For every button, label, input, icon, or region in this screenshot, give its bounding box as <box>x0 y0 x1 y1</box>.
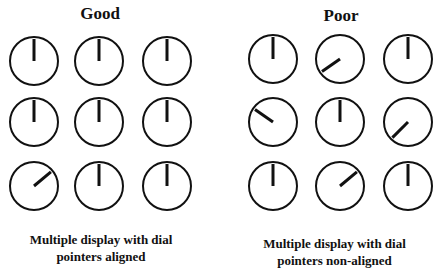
good-caption-line-1: Multiple display with dial <box>0 231 202 248</box>
dial-gauge <box>316 162 364 210</box>
dial-gauge <box>143 37 191 85</box>
dial-gauge <box>384 35 432 83</box>
dial-gauge <box>10 98 58 146</box>
dial-gauge <box>249 98 297 146</box>
good-dial-grid <box>10 37 191 210</box>
poor-panel-caption: Multiple display with dial pointers non-… <box>230 235 439 269</box>
dial-gauge <box>316 35 364 83</box>
dial-pointer <box>340 172 357 186</box>
dial-gauge <box>316 98 364 146</box>
dial-gauge <box>143 98 191 146</box>
poor-caption-line-2: pointers non-aligned <box>230 252 439 269</box>
dial-gauge <box>143 162 191 210</box>
dial-gauge <box>75 162 123 210</box>
dial-pointer <box>255 109 273 122</box>
dial-gauge <box>10 162 58 210</box>
dial-pointer <box>322 59 340 72</box>
good-caption-line-2: pointers aligned <box>0 248 202 265</box>
poor-dial-grid <box>249 35 432 210</box>
good-panel-caption: Multiple display with dial pointers alig… <box>0 231 202 265</box>
dial-gauge <box>75 37 123 85</box>
dial-pointer <box>34 172 51 186</box>
dial-gauge <box>249 35 297 83</box>
dial-pointer <box>392 122 408 138</box>
dial-gauge <box>384 98 432 146</box>
dial-gauge <box>384 162 432 210</box>
dial-gauge <box>249 162 297 210</box>
poor-caption-line-1: Multiple display with dial <box>230 235 439 252</box>
dial-gauge <box>10 37 58 85</box>
dial-gauge <box>75 98 123 146</box>
